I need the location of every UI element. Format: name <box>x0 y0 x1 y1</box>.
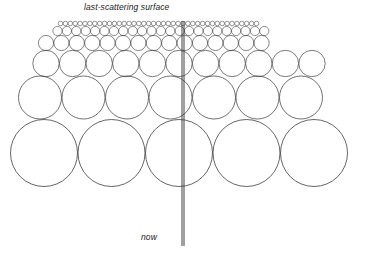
horizon-circle <box>254 21 259 26</box>
horizon-circle <box>119 26 128 35</box>
horizon-circle <box>249 21 254 26</box>
horizon-circle <box>260 26 269 35</box>
horizon-circle <box>166 50 192 76</box>
horizon-circle <box>88 21 93 26</box>
horizon-circle <box>191 21 196 26</box>
horizon-circle <box>171 21 176 26</box>
horizon-circle <box>146 35 161 50</box>
horizon-circle <box>54 35 69 50</box>
horizon-circle <box>83 21 88 26</box>
horizon-circle <box>208 35 223 50</box>
horizon-circle <box>85 35 100 50</box>
circle-row <box>33 50 325 76</box>
horizon-circle <box>62 26 71 35</box>
horizon-circle <box>200 21 205 26</box>
horizon-circle <box>272 50 298 76</box>
horizon-circle <box>241 26 250 35</box>
circle-row <box>19 76 323 119</box>
horizon-circle <box>181 21 186 26</box>
horizon-circle <box>138 26 147 35</box>
horizon-circle <box>59 50 85 76</box>
horizon-circle <box>11 120 78 187</box>
horizon-circle <box>112 21 117 26</box>
horizon-circle <box>156 21 161 26</box>
horizon-circle <box>149 76 192 119</box>
horizon-circle <box>106 76 149 119</box>
horizon-circle <box>72 26 81 35</box>
observer-worldline <box>182 21 184 246</box>
horizon-circle <box>19 76 62 119</box>
circle-row <box>11 120 348 187</box>
horizon-circle <box>109 26 118 35</box>
horizon-circle <box>176 21 181 26</box>
circles-canvas <box>0 0 377 256</box>
circle-rows <box>11 21 348 186</box>
horizon-circle <box>127 21 132 26</box>
horizon-circle <box>186 21 191 26</box>
horizon-circle <box>235 21 240 26</box>
horizon-circle <box>131 35 146 50</box>
horizon-circle <box>210 21 215 26</box>
horizon-circle <box>195 21 200 26</box>
horizon-circle <box>244 21 249 26</box>
horizon-circle <box>166 21 171 26</box>
horizon-circle <box>58 21 63 26</box>
horizon-circle <box>78 21 83 26</box>
horizon-circle <box>220 21 225 26</box>
horizon-circle <box>156 26 165 35</box>
circle-row <box>58 21 259 26</box>
horizon-circle <box>222 26 231 35</box>
horizon-circle <box>146 120 213 187</box>
horizon-circle <box>280 76 323 119</box>
horizon-circle <box>185 26 194 35</box>
horizon-circle <box>162 35 177 50</box>
horizon-circle <box>246 50 272 76</box>
horizon-circle <box>213 26 222 35</box>
horizon-circle <box>219 50 245 76</box>
horizon-circle <box>73 21 78 26</box>
horizon-circle <box>213 120 280 187</box>
horizon-circle <box>122 21 127 26</box>
horizon-circle <box>100 26 109 35</box>
horizon-circle <box>100 35 115 50</box>
horizon-circle <box>91 26 100 35</box>
horizon-circle <box>254 35 269 50</box>
horizon-circle <box>137 21 142 26</box>
horizon-circle <box>230 21 235 26</box>
horizon-circle <box>192 35 207 50</box>
horizon-circle <box>240 21 245 26</box>
horizon-circle <box>97 21 102 26</box>
horizon-circle <box>194 26 203 35</box>
horizon-circle <box>86 50 112 76</box>
horizon-circle <box>225 21 230 26</box>
horizon-circle <box>78 120 145 187</box>
horizon-circle <box>175 26 184 35</box>
horizon-circle <box>236 76 279 119</box>
horizon-circle <box>215 21 220 26</box>
horizon-circle <box>69 35 84 50</box>
horizon-circle <box>33 50 59 76</box>
horizon-circle <box>250 26 259 35</box>
horizon-circle <box>102 21 107 26</box>
horizon-circle <box>177 35 192 50</box>
horizon-circle <box>192 50 218 76</box>
horizon-circle <box>63 21 68 26</box>
circle-row <box>53 26 269 35</box>
horizon-diagram: last-scattering surface now <box>0 0 377 256</box>
horizon-circle <box>146 21 151 26</box>
horizon-circle <box>62 76 105 119</box>
last-scattering-surface-label: last-scattering surface <box>84 2 169 12</box>
horizon-circle <box>81 26 90 35</box>
horizon-circle <box>193 76 236 119</box>
horizon-circle <box>223 35 238 50</box>
horizon-circle <box>161 21 166 26</box>
horizon-circle <box>117 21 122 26</box>
horizon-circle <box>113 50 139 76</box>
horizon-circle <box>139 50 165 76</box>
horizon-circle <box>166 26 175 35</box>
horizon-circle <box>203 26 212 35</box>
horizon-circle <box>68 21 73 26</box>
horizon-circle <box>142 21 147 26</box>
horizon-circle <box>115 35 130 50</box>
circle-row <box>38 35 269 50</box>
